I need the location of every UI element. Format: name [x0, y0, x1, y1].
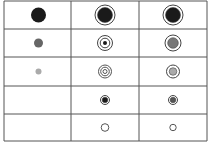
grid-cell-symbol	[98, 36, 113, 51]
grid-cell-symbol	[163, 5, 183, 25]
symbols	[31, 5, 183, 131]
inner-ring	[103, 70, 107, 74]
solid-dot	[34, 39, 43, 48]
grid-cell-symbol	[99, 65, 112, 78]
inner-dot	[169, 68, 177, 76]
hollow-circle	[170, 124, 176, 130]
inner-dot	[166, 8, 181, 23]
inner-dot	[102, 97, 108, 103]
inner-dot	[103, 41, 107, 45]
grid-cell-symbol	[170, 124, 176, 130]
grid-cell-symbol	[101, 124, 109, 132]
grid-cell-symbol	[31, 8, 46, 23]
hollow-circle	[101, 124, 109, 132]
inner-dot	[98, 8, 113, 23]
symbol-grid	[0, 0, 209, 142]
grid-cell-symbol	[36, 69, 42, 75]
inner-dot	[170, 97, 176, 103]
solid-dot	[36, 69, 42, 75]
solid-dot	[31, 8, 46, 23]
inner-dot	[168, 38, 179, 49]
grid-cell-symbol	[165, 35, 181, 51]
grid-cell-symbol	[34, 39, 43, 48]
grid-cell-symbol	[101, 96, 110, 105]
grid-cell-symbol	[169, 96, 178, 105]
grid-cell-symbol	[167, 65, 180, 78]
grid-cell-symbol	[95, 5, 115, 25]
